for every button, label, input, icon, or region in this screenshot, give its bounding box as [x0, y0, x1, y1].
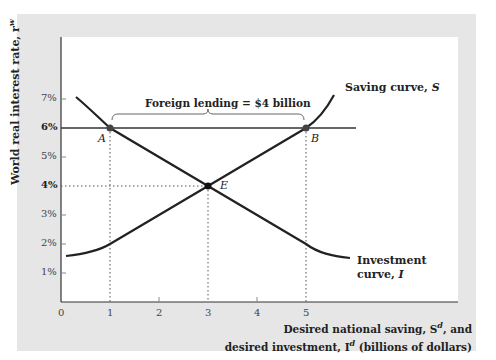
y-axis-label: World real interest rate, rw — [6, 19, 22, 185]
foreign-lending-annotation: Foreign lending = $4 billion — [145, 97, 311, 109]
y-tick-label: 3% — [41, 208, 57, 219]
x-tick-label: 4 — [254, 307, 260, 318]
x-tick-label: 1 — [107, 307, 113, 318]
x-tick-label: 0 — [58, 307, 64, 318]
y-tick-label: 6% — [41, 121, 57, 132]
y-tick-label: 1% — [41, 266, 57, 277]
y-tick-label: 4% — [41, 179, 57, 190]
saving-curve-label: Saving curve, S — [345, 81, 440, 94]
x-axis-label: Desired national saving, Sd, and desired… — [225, 318, 472, 353]
point-e-label: E — [220, 179, 228, 192]
point-a-label: A — [98, 132, 106, 145]
x-tick-label: 3 — [205, 307, 211, 318]
point-a-marker — [107, 125, 114, 132]
x-tick-label: 2 — [156, 307, 162, 318]
chart-svg — [0, 0, 496, 360]
y-tick-label: 2% — [41, 237, 57, 248]
x-tick-label: 5 — [303, 307, 309, 318]
y-tick-label: 7% — [41, 92, 57, 103]
point-e-marker — [205, 183, 212, 190]
y-tick-label: 5% — [41, 150, 57, 161]
point-b-marker — [303, 125, 310, 132]
point-b-label: B — [311, 132, 319, 145]
investment-curve-label: Investment curve, I — [357, 254, 427, 282]
